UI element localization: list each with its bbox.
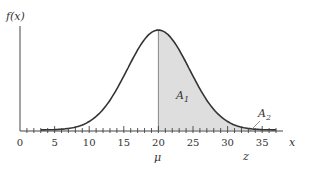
x-tick-label: 20 <box>152 137 165 148</box>
x-tick-label: 25 <box>187 137 200 148</box>
z-label: z <box>242 150 249 163</box>
mu-label: μ <box>154 151 161 164</box>
area-a2-label: A2 <box>257 107 271 122</box>
x-tick-label: 30 <box>221 137 234 148</box>
x-tick-label: 15 <box>117 137 130 148</box>
x-tick-label: 35 <box>256 137 269 148</box>
y-axis-label: f(x) <box>5 10 25 23</box>
x-axis-label: x <box>289 136 296 149</box>
x-tick-label: 10 <box>83 137 96 148</box>
normal-distribution-chart: 05101520253035 f(x) x μ z A1 A2 <box>0 0 310 170</box>
x-tick-label: 0 <box>17 137 23 148</box>
x-axis-tick-labels: 05101520253035 <box>17 137 269 148</box>
x-tick-label: 5 <box>51 137 57 148</box>
